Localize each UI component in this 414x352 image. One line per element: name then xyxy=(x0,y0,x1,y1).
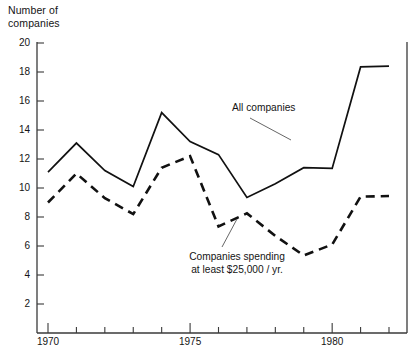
y-axis-tick-label: 6 xyxy=(8,240,30,251)
y-axis-tick-label: 18 xyxy=(8,66,30,77)
y-axis-tick-label: 16 xyxy=(8,95,30,106)
y-axis-tick-label: 4 xyxy=(8,269,30,280)
series-line-all-companies xyxy=(48,66,389,197)
x-axis-tick-label: 1980 xyxy=(312,336,352,347)
annotation-companies-spending: Companies spending at least $25,000 / yr… xyxy=(167,250,307,276)
chart-plot-area xyxy=(0,0,414,352)
y-axis-tick-label: 10 xyxy=(8,182,30,193)
x-axis-ticks xyxy=(48,323,389,333)
y-axis-tick-label: 2 xyxy=(8,298,30,309)
x-axis-tick-label: 1975 xyxy=(170,336,210,347)
y-axis-ticks xyxy=(37,43,44,304)
chart-container: Number of companies 2468101214161820 197… xyxy=(0,0,414,352)
leader-line-all-companies xyxy=(250,118,291,140)
annotation-leader-lines xyxy=(222,118,291,247)
y-axis-tick-label: 12 xyxy=(8,153,30,164)
y-axis-tick-label: 14 xyxy=(8,124,30,135)
annotation-all-companies: All companies xyxy=(232,101,295,114)
x-axis-tick-label: 1970 xyxy=(28,336,68,347)
series-line-companies-spending xyxy=(48,156,389,255)
data-series-group xyxy=(48,66,389,255)
y-axis-tick-label: 20 xyxy=(8,37,30,48)
y-axis-tick-label: 8 xyxy=(8,211,30,222)
y-axis-title: Number of companies xyxy=(8,4,60,30)
